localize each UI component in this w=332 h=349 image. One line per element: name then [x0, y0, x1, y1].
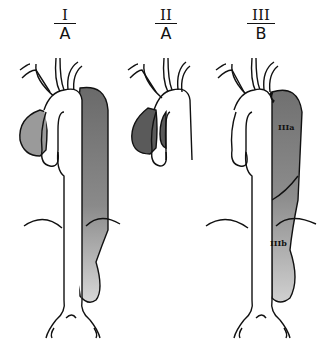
aorta-diagram: IIIa IIIb	[0, 0, 332, 349]
sublabel-IIIa: IIIa	[278, 122, 294, 132]
panel-I-aorta	[20, 58, 120, 338]
ascending-aneurysm-I	[20, 110, 47, 156]
dissection-false-lumen-II	[132, 108, 157, 154]
sublabel-IIIb: IIIb	[270, 238, 287, 248]
panel-III-aorta	[206, 58, 316, 338]
panel-II-aorta	[128, 58, 192, 166]
